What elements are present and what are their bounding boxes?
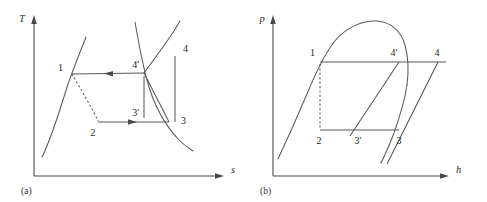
- panel-a-arrow-toward-1: [104, 71, 113, 77]
- panel-b-point-label-3: 3: [397, 135, 402, 146]
- panel-a-point-label-2: 2: [91, 127, 96, 138]
- panel-a-line-4prime-to-3: [144, 73, 169, 122]
- panel-b-y-axis-arrowhead: [270, 15, 276, 24]
- panel-a-point-label-4: 4: [183, 43, 188, 54]
- panel-b-x-axis-arrowhead: [440, 173, 449, 179]
- panel-a-axes: [31, 15, 224, 179]
- panel-b-axes: [270, 15, 449, 179]
- panel-a-caption: (a): [21, 186, 32, 197]
- panel-a-arrow-toward-3prime: [128, 119, 137, 125]
- panel-b-point-label-1: 1: [310, 47, 315, 58]
- panel-a-y-axis-label: T: [19, 13, 26, 24]
- panel-b-point-label-3prime: 3': [355, 135, 362, 146]
- panel-b-caption: (b): [260, 186, 271, 197]
- panel-a-point-label-3: 3: [181, 115, 186, 126]
- panel-a-point-label-3prime: 3': [132, 107, 139, 118]
- panel-a-y-axis-arrowhead: [31, 15, 37, 24]
- panel-b-isentrope-3-to-4: [387, 62, 438, 164]
- panel-b-isentrope-3prime-to-4prime: [350, 62, 399, 136]
- thermodynamic-diagrams-svg: T s 1 2 3' 3 4' 4 (a): [0, 0, 487, 202]
- panel-b-y-axis-label: p: [258, 13, 264, 24]
- figure-root: T s 1 2 3' 3 4' 4 (a): [0, 0, 487, 202]
- panel-a-dashed-line-1-to-2: [72, 74, 98, 121]
- panel-b-group: p h 1 2 3' 3 4' 4 (b): [258, 13, 461, 197]
- panel-b-saturated-vapor-branch: [381, 85, 407, 163]
- panel-b-vapor-dome-curve: [278, 21, 408, 159]
- panel-a-group: T s 1 2 3' 3 4' 4 (a): [19, 13, 235, 197]
- panel-a-point-label-1: 1: [58, 62, 63, 73]
- panel-b-point-label-2: 2: [317, 135, 322, 146]
- panel-b-point-label-4prime: 4': [391, 47, 398, 58]
- panel-a-saturated-liquid-curve: [42, 37, 86, 157]
- panel-b-x-axis-label: h: [456, 164, 461, 175]
- panel-a-x-axis-arrowhead: [215, 173, 224, 179]
- panel-b-point-label-4: 4: [435, 47, 440, 58]
- panel-a-point-label-4prime: 4': [132, 59, 139, 70]
- panel-a-x-axis-label: s: [231, 164, 235, 175]
